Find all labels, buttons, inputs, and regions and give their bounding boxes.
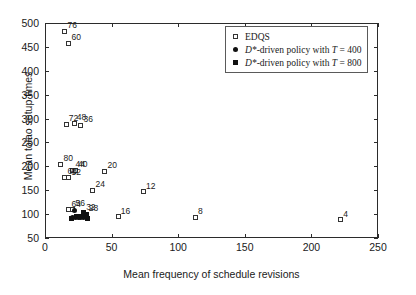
y-tick-label: 500: [5, 18, 39, 28]
y-tick-label: 450: [5, 42, 39, 52]
point-label: 24: [95, 180, 104, 188]
y-axis-tick: [45, 190, 49, 191]
x-axis-title: Mean frequency of schedule revisions: [45, 268, 378, 280]
y-axis-tick: [45, 47, 49, 48]
x-axis-tick: [178, 234, 179, 238]
y-axis-tick: [374, 142, 378, 143]
x-axis-tick: [178, 23, 179, 27]
point-label: 60: [71, 33, 80, 41]
y-axis-tick: [374, 166, 378, 167]
y-axis-tick: [374, 71, 378, 72]
point-label: 28: [89, 204, 98, 212]
point-label: 52: [71, 168, 80, 176]
marker-filled-circle: [72, 208, 77, 213]
legend-label-edqs: EDQS: [245, 32, 270, 42]
marker-open-square: [116, 214, 121, 219]
x-tick-label: 0: [25, 242, 65, 252]
y-axis-tick: [45, 238, 49, 239]
y-axis-tick: [45, 142, 49, 143]
filled-circle-icon: [231, 47, 240, 52]
point-label: 76: [67, 21, 76, 29]
x-tick-label: 250: [358, 242, 398, 252]
legend-item-dstar-800: D*-driven policy with T = 800: [231, 56, 361, 69]
y-tick-label: 250: [5, 137, 39, 147]
y-tick-label: 400: [5, 66, 39, 76]
scatter-plot-figure: Mean tolao setup times Mean frequency of…: [0, 0, 416, 295]
point-label: 12: [146, 182, 155, 190]
x-axis-tick: [311, 234, 312, 238]
point-label: 4: [343, 210, 348, 218]
point-label: 8: [198, 207, 203, 215]
y-axis-tick: [374, 95, 378, 96]
legend-label-dstar-400: D*-driven policy with T = 400: [245, 45, 361, 55]
point-label: 20: [107, 161, 116, 169]
x-axis-tick: [378, 23, 379, 27]
x-axis-tick: [378, 234, 379, 238]
marker-filled-square: [85, 216, 90, 221]
open-square-icon: [231, 34, 240, 39]
x-axis-tick: [245, 234, 246, 238]
y-axis-tick: [374, 238, 378, 239]
point-label: 56: [75, 199, 84, 207]
point-label: 80: [63, 154, 72, 162]
y-axis-tick: [45, 119, 49, 120]
legend-item-dstar-400: D*-driven policy with T = 400: [231, 43, 361, 56]
x-tick-label: 50: [92, 242, 132, 252]
y-axis-tick: [45, 71, 49, 72]
y-axis-tick: [45, 214, 49, 215]
point-label: 16: [121, 207, 130, 215]
y-axis-tick: [45, 95, 49, 96]
marker-filled-square: [69, 216, 74, 221]
x-tick-label: 200: [291, 242, 331, 252]
filled-square-icon: [231, 60, 240, 65]
point-label: 36: [83, 115, 92, 123]
y-tick-label: 200: [5, 161, 39, 171]
y-tick-label: 300: [5, 114, 39, 124]
legend-label-dstar-800: D*-driven policy with T = 800: [245, 58, 361, 68]
x-axis-tick: [45, 234, 46, 238]
x-tick-label: 150: [225, 242, 265, 252]
y-axis-tick: [45, 166, 49, 167]
legend: EDQS D*-driven policy with T = 400 D*-dr…: [225, 26, 368, 73]
legend-item-edqs: EDQS: [231, 30, 361, 43]
x-tick-label: 100: [158, 242, 198, 252]
x-axis-tick: [112, 234, 113, 238]
y-axis-tick: [374, 190, 378, 191]
y-tick-label: 350: [5, 90, 39, 100]
y-axis-tick: [374, 119, 378, 120]
x-axis-tick: [45, 23, 46, 27]
y-axis-tick: [374, 47, 378, 48]
y-tick-label: 100: [5, 209, 39, 219]
x-axis-tick: [112, 23, 113, 27]
y-tick-label: 150: [5, 185, 39, 195]
y-axis-tick: [374, 214, 378, 215]
